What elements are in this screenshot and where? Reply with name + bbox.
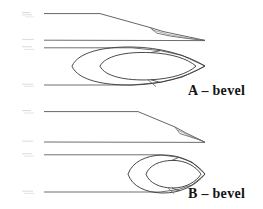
panel-a-side-upper-wall [44, 14, 205, 41]
panel-a-plan-inner-lens [100, 52, 196, 79]
panel-b-side-view [22, 111, 205, 143]
panel-b-side-break-marks [22, 111, 34, 142]
bevel-drawing-svg [0, 0, 263, 209]
panel-b-plan-break-marks [22, 154, 34, 194]
panel-b-side-upper-wall [44, 112, 205, 143]
panel-b-side-inner-grind-line [178, 130, 205, 142]
panel-b-caption: B – bevel [188, 187, 245, 201]
panel-b-plan-lower-edge [44, 174, 205, 192]
bevel-comparison-figure: A – bevel B – bevel [0, 0, 263, 209]
panel-a-side-view [22, 13, 205, 41]
panel-a-caption: A – bevel [188, 84, 245, 98]
panel-a-plan-facet-ticks [148, 51, 160, 87]
panel-a-plan-upper-edge [44, 48, 205, 66]
panel-a-plan-lower-edge [44, 66, 205, 85]
panel-a-plan-break-marks [22, 47, 34, 87]
panel-a-side-break-marks [22, 13, 34, 40]
panel-b-plan-view [22, 154, 205, 194]
panel-a-plan-view [22, 47, 205, 87]
